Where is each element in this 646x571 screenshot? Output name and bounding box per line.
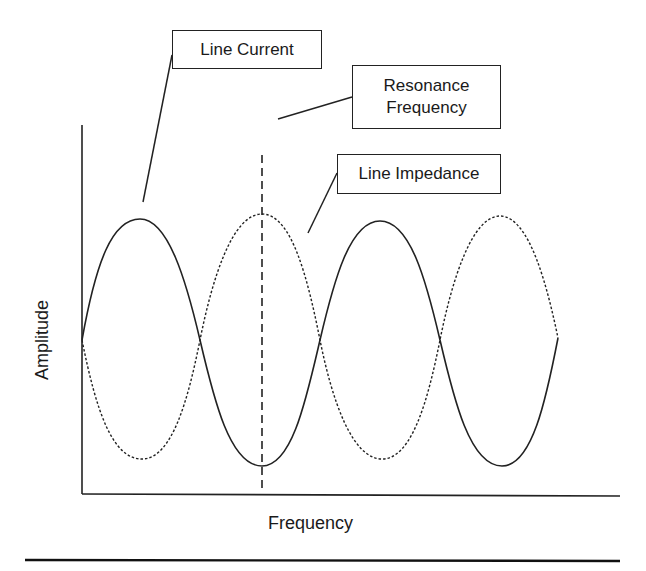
line-impedance-leader: [308, 173, 337, 233]
y-axis-label: Amplitude: [32, 297, 54, 383]
line-current-callout: Line Current: [172, 30, 322, 69]
diagram-canvas: [0, 0, 646, 571]
resonance-frequency-callout-line1: Resonance: [383, 75, 469, 97]
line-impedance-callout: Line Impedance: [337, 154, 501, 194]
diagram-figure: Line Current Resonance Frequency Line Im…: [0, 0, 646, 571]
line-current-leader: [143, 55, 172, 202]
line-impedance-callout-text: Line Impedance: [359, 163, 480, 185]
resonance-frequency-callout-line2: Frequency: [386, 97, 466, 119]
bottom-rule: [25, 560, 620, 561]
resonance-frequency-callout: Resonance Frequency: [352, 65, 501, 129]
x-axis-label: Frequency: [268, 513, 353, 534]
line-current-curve: [82, 219, 558, 466]
resonance-frequency-leader: [278, 97, 352, 119]
line-current-callout-text: Line Current: [200, 39, 294, 61]
x-axis: [82, 494, 620, 496]
